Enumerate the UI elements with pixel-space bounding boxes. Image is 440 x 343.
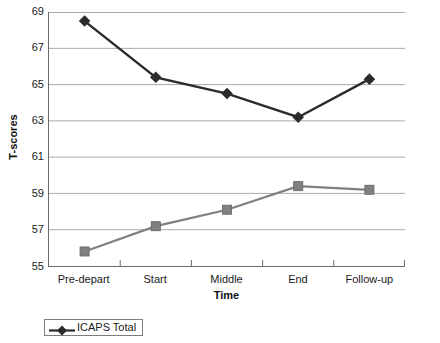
x-axis-labels: Pre-depart Start Middle End Follow-up <box>48 272 405 288</box>
diamond-line-marker-icon <box>49 322 75 333</box>
plot-svg <box>49 12 405 266</box>
y-tick-label: 65 <box>32 79 44 90</box>
x-tick-label: Middle <box>191 272 262 288</box>
data-point-marker <box>80 247 89 256</box>
x-axis-ticks <box>120 260 404 266</box>
series-line <box>85 21 370 117</box>
y-tick-label: 63 <box>32 115 44 126</box>
y-tick-label: 57 <box>32 224 44 235</box>
y-tick-label: 67 <box>32 42 44 53</box>
series-line <box>85 186 370 251</box>
plot-area <box>48 12 405 267</box>
data-point-marker <box>365 185 374 194</box>
y-tick-label: 55 <box>32 261 44 272</box>
y-tick-label: 69 <box>32 6 44 17</box>
y-tick-label: 59 <box>32 188 44 199</box>
legend-marker-svg <box>49 325 75 336</box>
x-tick-label: Pre-depart <box>48 272 119 288</box>
data-point-marker <box>364 73 376 85</box>
series-grey-square <box>80 182 374 256</box>
gridlines <box>49 12 405 229</box>
x-tick-label: End <box>262 272 333 288</box>
y-axis-title: T-scores <box>7 102 19 172</box>
x-tick-label: Follow-up <box>334 272 405 288</box>
data-point-marker <box>223 205 232 214</box>
series-icaps-total <box>79 15 375 123</box>
data-point-marker <box>294 182 303 191</box>
data-point-marker <box>151 222 160 231</box>
x-axis-title: Time <box>48 289 405 301</box>
legend-item-label: ICAPS Total <box>77 322 136 333</box>
y-tick-label: 61 <box>32 151 44 162</box>
data-point-marker <box>221 88 233 100</box>
chart-legend: ICAPS Total <box>44 319 143 336</box>
x-tick-label: Start <box>119 272 190 288</box>
chart-container: 69 67 65 63 61 59 57 55 T-scores <box>0 0 440 343</box>
